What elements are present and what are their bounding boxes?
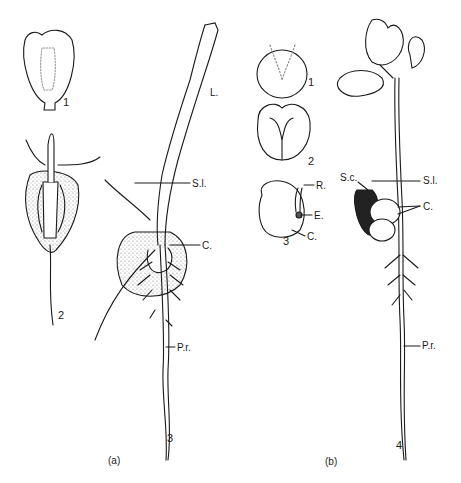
b-stage1-number: 1: [308, 77, 314, 88]
a-cotyledon-label: C.: [202, 241, 212, 251]
b-stage3-seed: [259, 181, 304, 237]
radicle-label: R.: [316, 181, 326, 191]
b-stage4-number: 4: [396, 440, 402, 451]
b-soil-level-label: S.l.: [423, 176, 437, 186]
b-stage2-seed: [258, 104, 311, 160]
a-soil-level-label: S.l.: [192, 179, 206, 189]
b-seed-cotyledon-label: C.: [307, 232, 317, 242]
a-primary-root-label: P.r.: [177, 343, 191, 353]
a-stage2-number: 2: [58, 310, 64, 321]
leaf-label: L.: [210, 88, 218, 98]
embryo-label: E.: [314, 211, 323, 221]
seed-coat-label: S.c.: [340, 173, 357, 183]
b-stage1-seed: [257, 45, 307, 98]
panel-a-caption: (a): [108, 456, 120, 466]
panel-b-caption: (b): [325, 457, 337, 467]
b-stage2-number: 2: [308, 156, 314, 167]
b-primary-root-label: P.r.: [422, 341, 436, 351]
a-stage1-number: 1: [63, 97, 69, 108]
a-stage2-seedling: [26, 134, 100, 325]
a-stage3-seedling: [95, 23, 218, 460]
b-stage3-number: 3: [283, 236, 289, 247]
b-stage4-seedling: [338, 19, 425, 460]
b-cotyledons-label: C.: [423, 202, 433, 212]
germination-drawing: [0, 0, 461, 483]
a-stage3-number: 3: [167, 433, 173, 444]
